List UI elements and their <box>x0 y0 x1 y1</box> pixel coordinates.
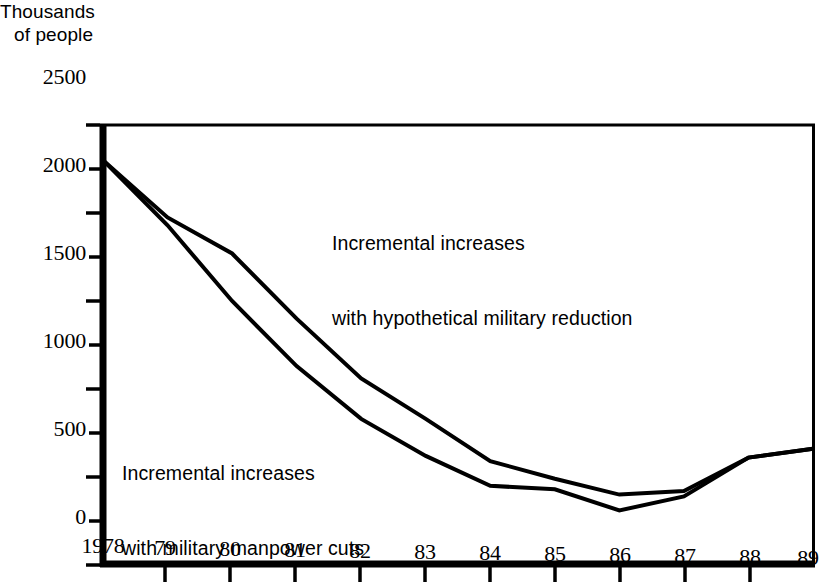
x-tick-label-87: 87 <box>655 543 715 569</box>
x-tick-label-84: 84 <box>460 540 520 566</box>
x-tick-label-83: 83 <box>395 539 455 565</box>
y-axis-title-line1: Thousands <box>0 0 823 23</box>
x-tick-label-85: 85 <box>525 541 585 567</box>
annotation-lower-line2: with military manpower cuts <box>122 536 364 561</box>
y-tick-label-1000: 1000 <box>0 328 86 354</box>
x-tick-label-88: 88 <box>720 544 780 570</box>
y-tick-label-1500: 1500 <box>0 240 86 266</box>
y-tick-label-500: 500 <box>0 416 86 442</box>
y-tick-label-2500: 2500 <box>0 64 86 90</box>
annotation-hypothetical-military-reduction: Incremental increases with hypothetical … <box>332 181 633 381</box>
y-tick-label-0: 0 <box>0 504 86 530</box>
annotation-military-manpower-cuts: Incremental increases with military manp… <box>122 411 364 586</box>
annotation-lower-line1: Incremental increases <box>122 461 364 486</box>
annotation-upper-line2: with hypothetical military reduction <box>332 306 633 331</box>
x-tick-label-89: 89 <box>783 545 823 571</box>
y-axis-title-line2: of people <box>14 23 823 46</box>
x-tick-label-86: 86 <box>590 542 650 568</box>
y-axis-title: Thousands of people <box>0 0 823 46</box>
y-axis-minor-ticks <box>89 169 100 521</box>
y-tick-label-2000: 2000 <box>0 152 86 178</box>
annotation-upper-line1: Incremental increases <box>332 231 633 256</box>
